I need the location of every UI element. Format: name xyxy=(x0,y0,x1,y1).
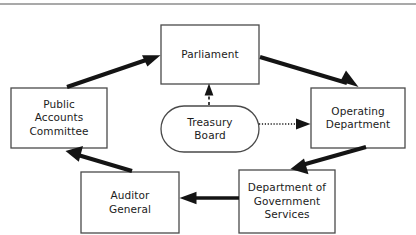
node-department-of-government-services[interactable] xyxy=(239,170,335,233)
edge-pac-to-parliament xyxy=(67,55,161,87)
diagram-graphics-layer xyxy=(0,0,416,235)
edge-parliament-to-operating-department xyxy=(260,57,359,87)
node-treasury-board[interactable] xyxy=(161,106,259,152)
diagram-canvas: Parliament Public Accounts Committee Ope… xyxy=(0,0,416,235)
node-auditor-general[interactable] xyxy=(81,172,179,233)
node-parliament[interactable] xyxy=(161,25,259,84)
node-operating-department[interactable] xyxy=(311,88,405,148)
edge-treasury-board-to-operating-department xyxy=(259,118,311,129)
edge-dgs-to-auditor-general xyxy=(180,192,240,204)
node-public-accounts-committee[interactable] xyxy=(11,88,107,148)
edge-treasury-board-to-parliament xyxy=(205,84,214,106)
edge-auditor-general-to-pac xyxy=(66,146,133,171)
